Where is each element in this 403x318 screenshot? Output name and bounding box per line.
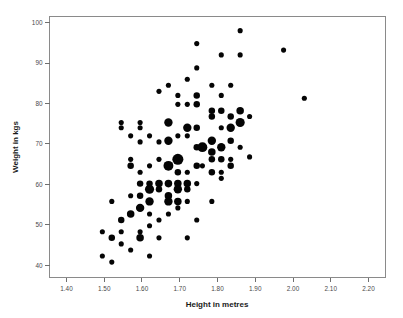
data-point [137,193,143,199]
data-point [164,161,174,171]
data-point [156,217,161,222]
data-point [147,211,152,216]
data-point [136,204,144,212]
data-point [219,170,224,175]
y-tick-label: 80 [35,100,43,107]
y-axis-title: Weight in kgs [11,121,20,173]
data-point [228,157,233,162]
data-point [138,120,143,125]
data-point [238,145,243,150]
data-point [194,181,199,186]
y-tick-label: 70 [35,140,43,147]
x-tick-label: 1.90 [249,285,262,292]
data-point [119,125,124,130]
data-point [175,93,180,98]
data-point [166,83,171,88]
data-point [209,113,215,119]
data-point [194,65,199,70]
data-point [227,113,233,119]
data-point [219,125,224,130]
y-tick-label: 60 [35,181,43,188]
x-tick-label: 1.80 [211,285,224,292]
data-point [218,156,224,162]
data-point [156,186,162,192]
data-point [209,156,215,162]
data-point [209,169,215,175]
data-point [175,133,180,138]
data-point [118,217,124,223]
data-point [119,241,124,246]
data-point [194,92,200,98]
data-point [138,229,143,234]
data-point [228,83,233,88]
x-tick-label: 1.50 [98,285,111,292]
data-point [138,139,143,144]
data-point [128,247,133,252]
data-point [138,170,143,175]
data-point [185,77,190,82]
data-point [175,102,180,107]
data-point [164,197,172,205]
data-point [227,137,233,143]
data-point [247,154,252,159]
data-point [138,125,143,130]
data-point [145,197,153,205]
x-tick-label: 2.00 [287,285,300,292]
data-point [147,223,152,228]
data-point [238,28,243,33]
data-point [184,186,190,192]
data-point [236,118,245,127]
data-point [128,133,133,138]
data-point [247,114,252,119]
data-point [227,124,235,132]
data-point [128,193,133,198]
data-point [109,235,115,241]
data-point [156,89,161,94]
x-tick-label: 1.60 [136,285,149,292]
data-point [174,185,182,193]
data-point [174,198,182,206]
data-point [172,154,183,165]
data-point [208,148,216,156]
data-point [194,101,200,107]
scatter-chart: 1.401.501.601.701.801.902.002.102.20 405… [0,0,403,318]
data-point [127,210,135,218]
data-point [185,235,190,240]
data-point [175,205,180,210]
plot-area: 1.401.501.601.701.801.902.002.102.20 405… [0,0,403,318]
y-tick-label: 50 [35,221,43,228]
y-tick-label: 90 [35,59,43,66]
data-point [208,137,216,145]
data-point [156,139,161,144]
data-point [109,199,114,204]
x-tick-label: 1.70 [174,285,187,292]
data-point [185,199,190,204]
data-point [218,108,224,114]
data-point [119,229,124,234]
data-point [194,163,200,169]
data-point [227,163,233,169]
data-point [219,52,224,57]
data-point [219,93,224,98]
data-point [165,180,173,188]
data-point [109,260,114,265]
data-point [185,133,190,138]
data-point [209,199,214,204]
data-point [197,142,207,152]
data-point [194,217,199,222]
data-point [136,234,144,242]
y-tick-label: 100 [32,19,43,26]
data-point [127,163,133,169]
data-point [137,180,143,186]
data-point [194,125,200,131]
data-point [236,107,244,115]
data-point [217,143,225,151]
data-point [156,235,161,240]
data-point [185,102,190,107]
x-tick-label: 1.40 [60,285,73,292]
data-point [100,229,105,234]
data-point [194,41,199,46]
data-point [147,253,152,258]
data-point [128,157,133,162]
data-point [164,118,172,126]
